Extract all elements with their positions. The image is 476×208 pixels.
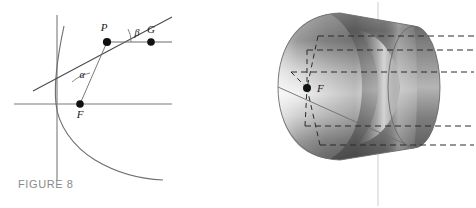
label-point-F: F — [76, 108, 84, 120]
label-angle-beta: β — [134, 27, 140, 38]
panel-parabola-2d: P F G α β — [14, 15, 172, 181]
point-G — [147, 38, 155, 46]
figure-canvas: P F G α β — [0, 0, 476, 208]
paraboloid-sheen — [278, 12, 418, 162]
parabola-curve — [55, 26, 163, 180]
point-P — [103, 38, 111, 46]
label-angle-alpha: α — [79, 69, 85, 80]
label-point-F-3d: F — [316, 82, 324, 94]
figure-container: P F G α β — [0, 0, 476, 208]
point-F-3d — [303, 84, 311, 92]
label-point-P: P — [100, 21, 108, 33]
panel-paraboloid-3d: F — [278, 2, 474, 206]
label-point-G: G — [147, 23, 155, 35]
figure-caption: FIGURE 8 — [18, 178, 74, 190]
point-F — [76, 100, 84, 108]
